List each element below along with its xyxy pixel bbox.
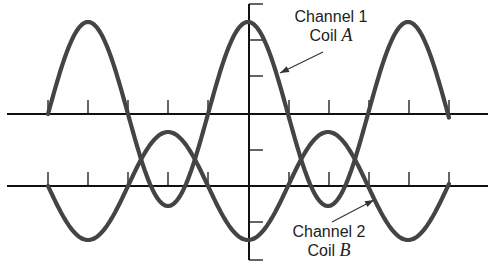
vertical-amplitude-axis	[249, 4, 263, 260]
channel-2-label: Channel 2 Coil B	[274, 222, 384, 260]
channel-baselines	[7, 114, 488, 186]
channel-2-pointer-arrow	[332, 200, 374, 222]
coil-b-letter: B	[340, 240, 351, 260]
coil-a-prefix: Coil	[309, 27, 341, 44]
waveform-diagram	[0, 0, 495, 268]
coil-b-prefix: Coil	[307, 242, 339, 259]
channel-1-title: Channel 1	[276, 7, 386, 26]
channel-1-label: Channel 1 Coil A	[276, 7, 386, 45]
coil-a-letter: A	[342, 25, 353, 45]
channel-2-title: Channel 2	[274, 222, 384, 241]
channel-1-pointer-arrow	[280, 52, 323, 73]
arrowhead-icon	[365, 200, 374, 207]
arrowhead-icon	[280, 66, 289, 73]
coil-b-caption: Coil B	[274, 241, 384, 260]
coil-a-caption: Coil A	[276, 26, 386, 45]
